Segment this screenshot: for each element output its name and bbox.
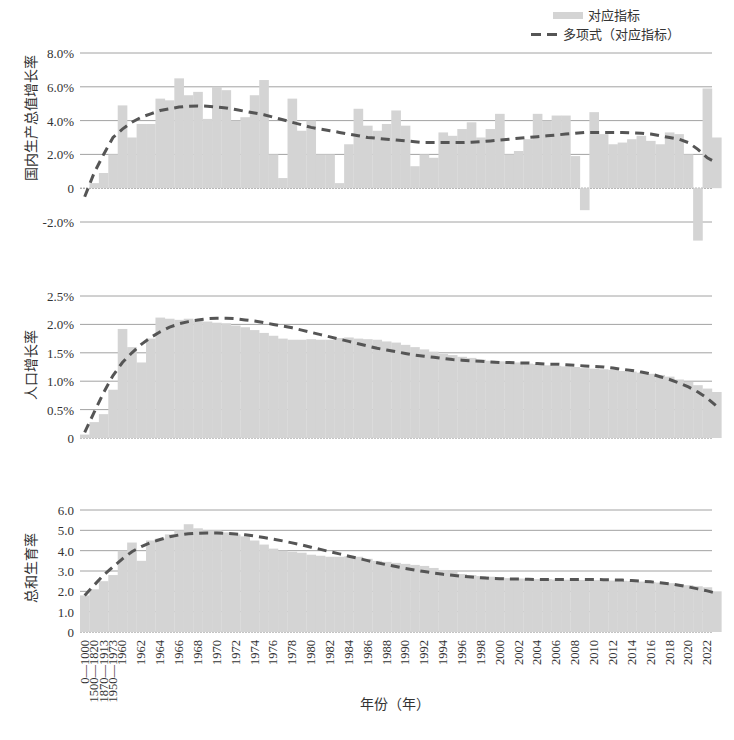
bar [288,99,298,189]
y-tick-label: 4.0 [58,544,74,559]
y-axis-title: 国内生产总值增长率 [23,55,39,181]
bar [325,154,335,188]
bar [382,124,392,188]
bar [137,124,147,188]
y-tick-label: 1.5% [47,346,74,361]
bar [552,116,562,189]
y-tick-label: 0 [68,181,75,196]
bar [420,154,430,188]
bar [608,581,618,632]
bar [212,530,222,632]
bar [703,587,713,632]
bar [504,362,514,438]
bar [571,580,581,632]
bar [316,340,326,438]
x-tick-label: 1968 [191,640,205,665]
bar [410,565,420,632]
bar-series [89,78,721,240]
bar [382,341,392,438]
bar [363,339,373,438]
chart-panel-3: 01.02.03.04.05.06.0总和生育率 [23,503,722,640]
bar [174,320,184,438]
bar [552,366,562,438]
bar [203,322,213,438]
bar [193,320,203,438]
bar [618,143,628,189]
bar [155,99,165,189]
x-tick-label: 1960 [115,640,129,665]
bar [231,326,241,438]
bar [410,166,420,188]
bar-series [80,318,722,438]
bar [608,370,618,438]
bar [165,100,175,188]
bar [108,390,118,438]
bar [712,138,722,189]
bar [438,132,448,188]
bar [89,183,99,188]
bar [561,116,571,189]
bar [438,570,448,632]
x-tick-label: 1998 [474,640,488,665]
bar [693,188,703,240]
bar [486,361,496,438]
bar [401,126,411,189]
bar [533,364,543,438]
bar [542,121,552,189]
bar [137,561,147,632]
bar [184,95,194,188]
bar [571,156,581,188]
bar [514,362,524,438]
bar [504,578,514,632]
y-tick-label: 0.5% [47,403,74,418]
dashed-line-icon [531,33,561,36]
bar [438,354,448,438]
bar [155,318,165,438]
x-tick-label: 1976 [266,640,280,665]
bar [712,392,722,438]
legend: 对应指标 多项式（对应指标） [553,6,680,44]
bar [467,358,477,438]
bar [429,568,439,632]
legend-item-trend: 多项式（对应指标） [531,25,680,44]
x-axis-title: 年份（年） [360,693,430,713]
bar [429,158,439,188]
bar [127,543,137,632]
bar [118,105,128,188]
bar [665,377,675,438]
bar [674,584,684,632]
y-tick-label: 0 [68,625,75,640]
bar [221,532,231,632]
bar [523,579,533,632]
bar [212,87,222,188]
bar [288,340,298,438]
bar [684,585,694,632]
bar [391,110,401,188]
bar [240,536,250,632]
bar [203,530,213,632]
bar [89,422,99,438]
y-tick-label: 6.0% [47,80,74,95]
bar [514,151,524,188]
bar [203,119,213,188]
bar [589,369,599,438]
bar [486,577,496,632]
bar [344,144,354,188]
bar [495,361,505,438]
bar [514,579,524,632]
bar [561,366,571,438]
bar [221,323,231,438]
x-tick-label: 2004 [530,639,544,665]
bar [118,329,128,438]
y-tick-label: 1.0% [47,374,74,389]
bar [476,138,486,189]
bar [599,369,609,438]
bar [240,327,250,438]
bar [504,154,514,188]
bar [684,154,694,188]
y-tick-label: 6.0 [58,503,74,518]
bar [467,122,477,188]
bar [608,144,618,188]
bar [137,362,147,438]
bar [637,136,647,188]
